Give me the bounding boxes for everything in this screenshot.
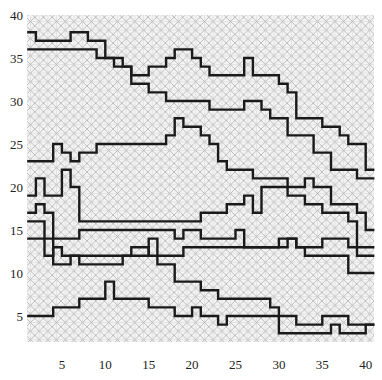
x-tick-label: 20	[186, 357, 199, 372]
x-tick-label: 30	[272, 357, 285, 372]
y-tick-label: 10	[10, 266, 23, 281]
x-tick-label: 15	[142, 357, 155, 372]
x-tick-label: 35	[316, 357, 329, 372]
step-line-chart: 510152025303540 510152025303540	[0, 0, 382, 380]
x-axis-ticks: 510152025303540	[59, 357, 373, 372]
x-tick-label: 40	[359, 357, 372, 372]
y-tick-label: 15	[10, 223, 23, 238]
x-tick-label: 25	[229, 357, 242, 372]
y-tick-label: 30	[10, 94, 23, 109]
x-tick-label: 10	[99, 357, 112, 372]
y-tick-label: 40	[10, 8, 23, 23]
y-tick-label: 25	[10, 137, 23, 152]
y-tick-label: 35	[10, 51, 23, 66]
x-tick-label: 5	[59, 357, 66, 372]
y-tick-label: 20	[10, 180, 23, 195]
y-axis-ticks: 510152025303540	[10, 8, 23, 324]
y-tick-label: 5	[17, 309, 24, 324]
